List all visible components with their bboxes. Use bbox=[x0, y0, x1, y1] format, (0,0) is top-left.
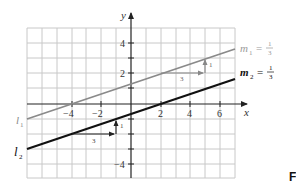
x-tick-4: 4 bbox=[187, 108, 192, 119]
y-tick-4: 4 bbox=[120, 38, 125, 49]
svg-text:l: l bbox=[14, 144, 18, 159]
label-l1: l 1 bbox=[16, 114, 24, 129]
svg-text:2: 2 bbox=[19, 153, 23, 161]
svg-text:1: 1 bbox=[269, 64, 273, 72]
svg-text:1: 1 bbox=[20, 121, 24, 129]
x-tick-neg2: −2 bbox=[92, 108, 103, 119]
y-tick-2: 2 bbox=[120, 68, 125, 79]
figure-tag: F bbox=[289, 170, 296, 184]
slope-label-m1: m 1 = 1 3 bbox=[240, 40, 273, 57]
l1-run-label: 3 bbox=[180, 75, 184, 83]
y-axis-label: y bbox=[120, 9, 126, 21]
svg-text:=: = bbox=[257, 66, 263, 78]
x-tick-neg4: −4 bbox=[63, 108, 74, 119]
slope-label-m2: m 2 = 1 3 bbox=[240, 64, 274, 81]
l1-rise-label: 1 bbox=[209, 61, 213, 69]
svg-text:1: 1 bbox=[268, 40, 272, 48]
parallel-lines-graph: −4 −2 2 4 6 4 2 −4 x y 3 1 3 1 l 1 l 2 m… bbox=[0, 0, 296, 192]
l2-rise-label: 1 bbox=[120, 122, 124, 130]
svg-text:=: = bbox=[256, 42, 262, 54]
svg-text:1: 1 bbox=[249, 49, 253, 57]
x-axis-label: x bbox=[243, 106, 249, 118]
svg-text:l: l bbox=[16, 114, 19, 126]
svg-text:m: m bbox=[240, 42, 248, 54]
x-tick-2: 2 bbox=[158, 108, 163, 119]
y-tick-neg4: −4 bbox=[114, 159, 125, 170]
label-l2: l 2 bbox=[14, 144, 23, 161]
svg-text:2: 2 bbox=[250, 73, 254, 81]
svg-text:3: 3 bbox=[269, 73, 273, 81]
svg-text:m: m bbox=[240, 66, 249, 78]
l2-run-label: 3 bbox=[92, 137, 96, 145]
svg-text:3: 3 bbox=[268, 49, 272, 57]
x-tick-6: 6 bbox=[217, 108, 222, 119]
